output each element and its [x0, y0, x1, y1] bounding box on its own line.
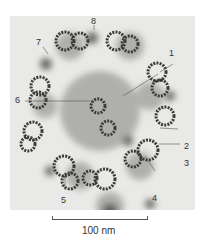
label-2: 2 [184, 142, 189, 151]
label-7: 7 [36, 38, 41, 47]
label-1: 1 [169, 49, 174, 58]
label-6: 6 [15, 96, 20, 105]
label-3: 3 [184, 159, 189, 168]
label-4: 4 [152, 194, 157, 203]
label-5: 5 [61, 196, 66, 205]
label-8: 8 [91, 17, 96, 26]
scale-bar [52, 216, 148, 220]
scale-bar-label: 100 nm [82, 225, 115, 236]
